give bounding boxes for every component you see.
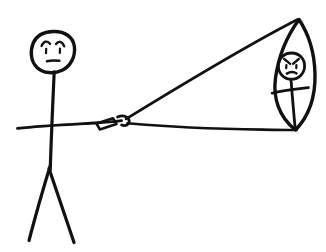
drawing-canvas — [0, 0, 326, 252]
ink-sketch — [0, 0, 326, 252]
mouth-icon — [47, 60, 59, 61]
